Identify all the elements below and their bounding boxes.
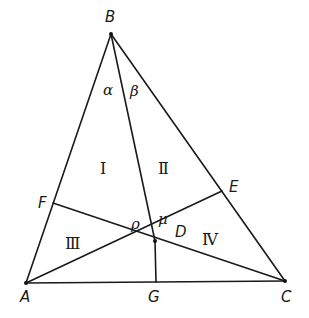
label-point-B: B bbox=[105, 8, 115, 26]
region-label-III: Ⅲ bbox=[65, 234, 80, 253]
vertex-dot-B bbox=[109, 32, 113, 36]
triangle-diagram: B A C G F E D α β ρ μ Ⅰ Ⅱ Ⅲ Ⅳ bbox=[0, 0, 309, 318]
label-point-E: E bbox=[229, 178, 239, 196]
angle-label-beta: β bbox=[129, 82, 139, 100]
region-label-IV: Ⅳ bbox=[202, 230, 219, 249]
segment-AE bbox=[26, 191, 222, 283]
angle-label-alpha: α bbox=[103, 81, 113, 99]
vertex-dot-C bbox=[283, 279, 287, 283]
label-point-C: C bbox=[281, 288, 292, 306]
segment-FC bbox=[53, 203, 285, 281]
angle-label-rho: ρ bbox=[130, 215, 140, 233]
region-label-I: Ⅰ bbox=[100, 159, 106, 178]
vertex-dot-A bbox=[24, 281, 28, 285]
angle-label-mu: μ bbox=[158, 210, 168, 228]
label-point-A: A bbox=[19, 288, 30, 306]
region-label-II: Ⅱ bbox=[158, 159, 169, 178]
label-point-D: D bbox=[175, 223, 187, 241]
label-point-F: F bbox=[38, 194, 47, 212]
segment-DG bbox=[155, 241, 156, 282]
label-point-G: G bbox=[148, 288, 160, 306]
vertex-dot-D bbox=[153, 239, 157, 243]
